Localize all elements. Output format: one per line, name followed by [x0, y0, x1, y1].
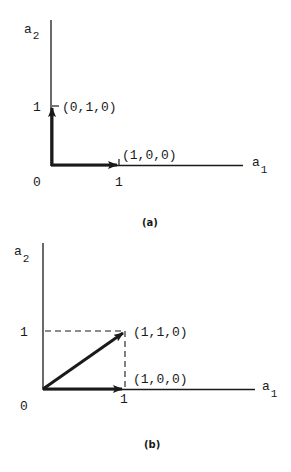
panel-b: a2 a1 0 1 1 (1,1,0) (1,0,0) (b): [14, 243, 278, 450]
x-tick-label: 1: [115, 175, 123, 190]
panel-a-caption: (a): [142, 217, 158, 228]
x-tick-label: 1: [120, 392, 128, 407]
x-axis-label: a1: [262, 379, 278, 400]
vector-e1-label: (1,0,0): [133, 372, 188, 387]
panel-a: a2 a1 0 1 1 (0,1,0) (1,0,0) (a): [24, 20, 268, 228]
vector-e1-label: (1,0,0): [122, 148, 177, 163]
y-tick-label: 1: [33, 100, 41, 115]
y-axis-label: a2: [24, 22, 39, 42]
origin-label: 0: [20, 399, 28, 414]
y-axis-label: a2: [14, 244, 29, 265]
vector-e1-plus-e2: [43, 333, 123, 389]
y-tick-label: 1: [20, 325, 28, 340]
x-axis-label: a1: [252, 155, 268, 176]
panel-b-caption: (b): [144, 439, 160, 450]
origin-label: 0: [33, 175, 41, 190]
vector-e2-label: (0,1,0): [62, 100, 117, 115]
vector-diagram: a2 a1 0 1 1 (0,1,0) (1,0,0) (a) a2 a1 0 …: [0, 0, 291, 472]
vector-e1-plus-e2-label: (1,1,0): [133, 325, 188, 340]
